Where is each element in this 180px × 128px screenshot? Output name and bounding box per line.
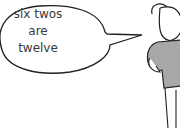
pig-legs — [165, 88, 176, 128]
speech-bubble-text: six twos are twelve — [6, 6, 70, 57]
pig-character — [147, 4, 180, 128]
speech-line-3: twelve — [6, 40, 70, 57]
speech-line-2: are — [6, 23, 70, 40]
speech-line-1: six twos — [6, 6, 70, 23]
pig-head — [159, 7, 180, 40]
